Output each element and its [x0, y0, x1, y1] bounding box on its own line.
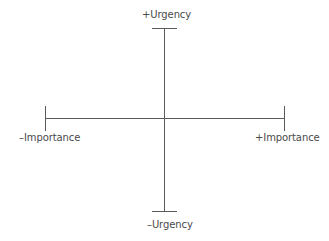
negative-importance-label: –Importance: [19, 132, 80, 144]
positive-importance-label: +Importance: [255, 132, 320, 144]
importance-urgency-axes-diagram: +Urgency –Importance +Importance –Urgenc…: [0, 0, 329, 241]
positive-urgency-label: +Urgency: [142, 9, 191, 21]
negative-urgency-label: –Urgency: [147, 219, 193, 231]
axes-graphic: [0, 0, 329, 241]
